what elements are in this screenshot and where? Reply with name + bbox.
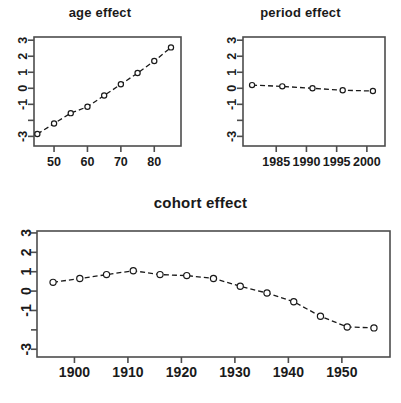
data-point-marker [237,283,243,289]
data-point-marker [310,86,315,91]
plot-frame [243,37,385,146]
cohort-effect-plot: -3-10123190019101920193019401950 [0,182,401,403]
x-axis-tick-label: 2000 [353,155,381,169]
data-point-marker [51,121,56,126]
data-point-marker [264,290,270,296]
y-axis-tick-label: 1 [18,268,34,276]
panel-cohort-effect: cohort effect -3-10123190019101920193019… [0,182,401,403]
y-axis-tick-label: 0 [225,85,239,92]
y-axis-tick-label: 3 [18,229,34,237]
data-point-marker [157,272,163,278]
y-axis-tick-label: 3 [225,37,239,44]
data-point-marker [370,88,375,93]
x-axis-tick-label: 1990 [293,155,321,169]
x-axis-tick-label: 1995 [323,155,351,169]
y-axis-tick-label: -1 [225,99,239,110]
data-point-marker [344,324,350,330]
data-point-marker [35,131,40,136]
data-point-marker [152,58,157,63]
data-point-marker [249,82,254,87]
y-axis-tick-label: 2 [16,53,30,60]
y-axis-tick-label: 3 [16,37,30,44]
data-point-marker [280,84,285,89]
x-axis-tick-label: 1950 [326,364,357,380]
y-axis-tick-label: -3 [18,343,34,356]
x-axis-tick-label: 1900 [59,364,90,380]
y-axis-tick-label: 1 [16,69,30,76]
data-point-marker [103,272,109,278]
plot-frame [34,37,181,146]
y-axis-tick-label: -3 [16,131,30,142]
data-point-marker [371,325,377,331]
series-line [37,47,171,134]
x-axis-tick-label: 1985 [262,155,290,169]
plot-frame [37,231,390,357]
data-point-marker [184,272,190,278]
x-axis-tick-label: 1910 [112,364,143,380]
y-axis-tick-label: 0 [16,85,30,92]
y-axis-tick-label: 0 [18,287,34,295]
data-point-marker [77,275,83,281]
data-point-marker [135,70,140,75]
x-axis-tick-label: 60 [81,155,95,169]
y-axis-tick-label: 1 [225,69,239,76]
y-axis-tick-label: -1 [18,304,34,317]
data-point-marker [68,111,73,116]
x-axis-tick-label: 50 [47,155,61,169]
data-point-marker [130,268,136,274]
x-axis-tick-label: 70 [114,155,128,169]
data-point-marker [168,45,173,50]
y-axis-tick-label: -3 [225,131,239,142]
data-point-marker [50,279,56,285]
age-effect-plot: -3-1012350607080 [0,0,200,182]
data-point-marker [340,88,345,93]
panel-age-effect: age effect -3-1012350607080 [0,0,200,182]
y-axis-tick-label: -1 [16,99,30,110]
y-axis-tick-label: 2 [18,248,34,256]
data-point-marker [291,299,297,305]
data-point-marker [317,313,323,319]
period-effect-plot: -3-101231985199019952000 [200,0,401,182]
data-point-marker [85,104,90,109]
x-axis-tick-label: 1930 [219,364,250,380]
x-axis-tick-label: 80 [147,155,161,169]
data-point-marker [102,93,107,98]
x-axis-tick-label: 1920 [166,364,197,380]
data-point-marker [118,82,123,87]
panel-period-effect: period effect -3-101231985199019952000 [200,0,401,182]
data-point-marker [210,275,216,281]
y-axis-tick-label: 2 [225,53,239,60]
x-axis-tick-label: 1940 [273,364,304,380]
